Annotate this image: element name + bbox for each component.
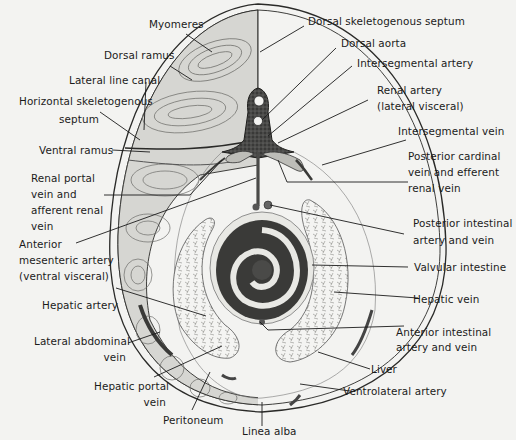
label-myomeres: Myomeres xyxy=(149,17,204,31)
label-text: Hepatic portal xyxy=(94,378,166,394)
label-text: Ventral ramus xyxy=(39,143,113,157)
label-text: Liver xyxy=(371,362,397,376)
label-text: Myomeres xyxy=(149,17,204,31)
label-text: (lateral visceral) xyxy=(377,98,464,114)
label-anterior-intestinal-artery: Anterior intestinal artery and vein xyxy=(396,325,491,355)
label-hepatic-vein: Hepatic vein xyxy=(413,292,479,306)
label-intersegmental-artery: Intersegmental artery xyxy=(357,56,473,70)
label-hepatic-portal-vein: Hepatic portal vein xyxy=(94,378,166,410)
label-text: mesenteric artery xyxy=(19,252,114,268)
label-anterior-mesenteric-artery: Anterior mesenteric artery (ventral visc… xyxy=(19,236,114,284)
ventrolateral-artery-mark xyxy=(290,395,300,405)
label-intersegmental-vein: Intersegmental vein xyxy=(398,124,504,138)
myomeres xyxy=(118,10,262,405)
label-text: Ventrolateral artery xyxy=(343,384,447,398)
label-text: Lateral line canal xyxy=(69,73,160,87)
label-dorsal-ramus: Dorsal ramus xyxy=(104,48,175,62)
label-lateral-abdominal-vein: Lateral abdominal vein xyxy=(34,333,126,365)
label-text: Renal portal xyxy=(31,170,103,186)
label-text: septum xyxy=(19,112,139,126)
label-text: Hepatic artery xyxy=(42,298,118,312)
label-text: Dorsal aorta xyxy=(341,36,406,50)
label-posterior-cardinal-vein: Posterior cardinal vein and efferent ren… xyxy=(408,148,501,196)
label-text: Lateral abdominal xyxy=(34,333,126,349)
label-text: vein xyxy=(34,349,126,365)
label-ventrolateral-artery: Ventrolateral artery xyxy=(343,384,447,398)
label-text: artery and vein xyxy=(396,340,491,355)
label-lateral-line-canal: Lateral line canal xyxy=(69,73,160,87)
label-text: artery and vein xyxy=(413,232,512,249)
label-text: vein and xyxy=(31,186,103,202)
label-peritoneum: Peritoneum xyxy=(163,413,224,427)
label-linea-alba: Linea alba xyxy=(242,424,297,438)
label-horizontal-septum: Horizontal skeletogenous septum xyxy=(19,94,139,126)
label-text: vein xyxy=(94,394,166,410)
label-text: Anterior xyxy=(19,236,114,252)
label-text: Posterior intestinal xyxy=(413,215,512,232)
valvular-intestine xyxy=(210,212,314,324)
label-renal-artery: Renal artery (lateral visceral) xyxy=(377,82,464,114)
label-text: Intersegmental vein xyxy=(398,124,504,138)
label-dorsal-aorta: Dorsal aorta xyxy=(341,36,406,50)
label-text: renal vein xyxy=(408,180,501,196)
label-hepatic-artery: Hepatic artery xyxy=(42,298,118,312)
label-valvular-intestine: Valvular intestine xyxy=(414,260,506,274)
label-text: Anterior intestinal xyxy=(396,325,491,340)
label-posterior-intestinal-artery: Posterior intestinal artery and vein xyxy=(413,215,512,249)
label-text: Valvular intestine xyxy=(414,260,506,274)
label-text: Dorsal ramus xyxy=(104,48,175,62)
label-text: Renal artery xyxy=(377,82,464,98)
label-text: Intersegmental artery xyxy=(357,56,473,70)
label-ventral-ramus: Ventral ramus xyxy=(39,143,113,157)
label-text: (ventral visceral) xyxy=(19,268,114,284)
label-text: vein and efferent xyxy=(408,164,501,180)
label-text: Peritoneum xyxy=(163,413,224,427)
label-text: Horizontal skeletogenous xyxy=(19,94,139,108)
label-liver: Liver xyxy=(371,362,397,376)
label-dorsal-skeletogenous-septum: Dorsal skeletogenous septum xyxy=(308,14,465,28)
label-text: Hepatic vein xyxy=(413,292,479,306)
label-renal-portal-vein: Renal portal vein and afferent renal vei… xyxy=(31,170,103,234)
label-text: Linea alba xyxy=(242,424,297,438)
label-text: vein xyxy=(31,218,103,234)
label-text: afferent renal xyxy=(31,202,103,218)
label-text: Dorsal skeletogenous septum xyxy=(308,14,465,28)
label-text: Posterior cardinal xyxy=(408,148,501,164)
